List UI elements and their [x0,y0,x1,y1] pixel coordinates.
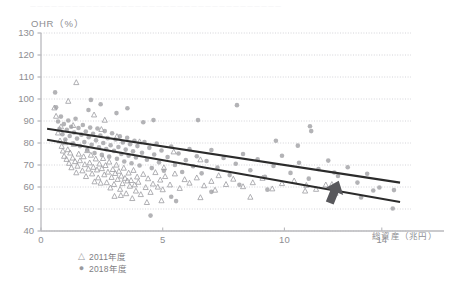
x-tick-label: 5 [153,235,173,244]
axis-lines [41,33,444,231]
y-tick-label: 120 [8,50,34,59]
y-tick-label: 70 [8,160,34,169]
gridlines [41,33,411,231]
triangle-marker-icon: △ [76,251,87,262]
series-2018-markers [53,90,396,218]
legend: △ 2011年度 ● 2018年度 [76,250,127,274]
legend-item-2018: ● 2018年度 [76,262,127,274]
ohr-total-assets-scatter-figure: 一一一一一一一一一一一一一一一一一一一一一一一一一一一一一一一一一一一一 OHR… [0,0,449,287]
legend-label-2018: 2018年度 [89,262,127,274]
y-tick-label: 110 [8,72,34,81]
y-tick-label: 100 [8,94,34,103]
y-tick-label: 80 [8,138,34,147]
legend-item-2011: △ 2011年度 [76,250,127,262]
y-tick-label: 50 [8,204,34,213]
y-tick-label: 40 [8,226,34,235]
circle-marker-icon: ● [76,263,87,274]
x-axis-title: 総資産（兆円） [372,229,437,241]
x-tick-label: 10 [274,235,294,244]
y-tick-label: 60 [8,182,34,191]
y-tick-label: 90 [8,116,34,125]
legend-label-2011: 2011年度 [89,250,126,262]
y-tick-label: 130 [8,28,34,37]
x-tick-label: 0 [31,235,51,244]
